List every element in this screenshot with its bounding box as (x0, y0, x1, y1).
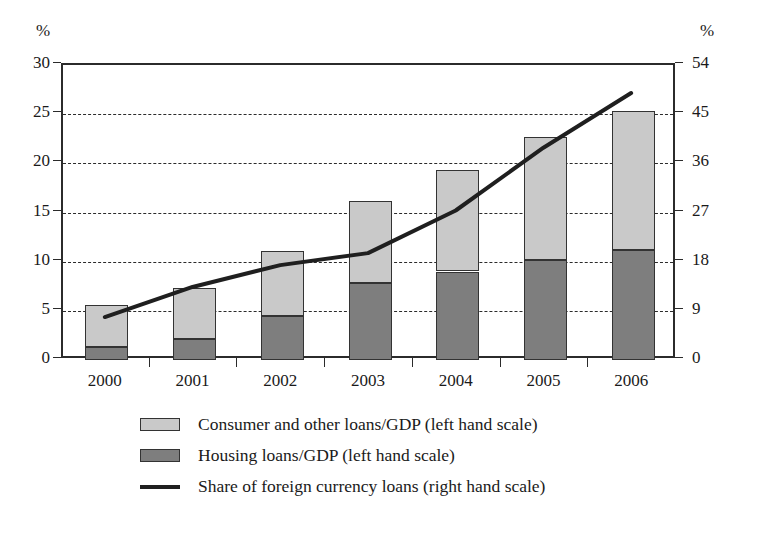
right-axis-tick-label: 36 (692, 152, 709, 169)
legend-label-housing-loans: Housing loans/GDP (left hand scale) (198, 446, 455, 465)
x-axis-category-label: 2001 (149, 372, 237, 389)
right-axis-tick (675, 308, 683, 309)
foreign-currency-loans-line-marker (140, 485, 180, 489)
left-axis-unit-label: % (36, 22, 50, 39)
legend-swatch-foreign-currency-loans (140, 485, 198, 489)
right-axis-unit-label: % (700, 22, 714, 39)
left-axis-tick (53, 62, 61, 63)
consumer-loans-color-box (140, 418, 180, 431)
housing-loans-color-box (140, 449, 180, 462)
right-axis-tick (675, 357, 683, 358)
left-axis-tick (53, 210, 61, 211)
x-axis-category-label: 2006 (587, 372, 675, 389)
left-axis-tick-label: 25 (33, 103, 50, 120)
x-axis-category-label: 2003 (324, 372, 412, 389)
left-axis-tick (53, 111, 61, 112)
left-axis-tick-label: 0 (42, 349, 51, 366)
left-axis-tick-label: 20 (33, 152, 50, 169)
x-axis-tick (324, 358, 325, 367)
right-axis-tick-label: 18 (692, 251, 709, 268)
bar-segment-consumer-loans (349, 201, 392, 284)
x-axis-tick (236, 358, 237, 367)
left-axis-tick-label: 10 (33, 251, 50, 268)
bar-segment-housing-loans (524, 260, 567, 360)
left-axis-tick (53, 259, 61, 260)
x-axis-tick (587, 358, 588, 367)
bar-segment-consumer-loans (261, 251, 304, 316)
x-axis-tick (412, 358, 413, 367)
gridline (63, 163, 673, 164)
right-axis-tick-label: 27 (692, 202, 709, 219)
legend-item-foreign-currency-loans: Share of foreign currency loans (right h… (140, 471, 660, 502)
left-axis-tick (53, 308, 61, 309)
bar-segment-housing-loans (85, 347, 128, 360)
legend-item-consumer-loans: Consumer and other loans/GDP (left hand … (140, 409, 660, 440)
bar-segment-consumer-loans (436, 170, 479, 271)
legend-label-consumer-loans: Consumer and other loans/GDP (left hand … (198, 415, 538, 434)
right-axis-tick (675, 62, 683, 63)
bar-segment-housing-loans (173, 339, 216, 360)
left-axis-tick-label: 5 (42, 300, 51, 317)
legend-swatch-consumer-loans (140, 418, 198, 431)
x-axis-tick (149, 358, 150, 367)
legend-label-foreign-currency-loans: Share of foreign currency loans (right h… (198, 477, 545, 496)
plot-area (61, 63, 675, 358)
legend-swatch-housing-loans (140, 449, 198, 462)
x-axis-tick (500, 358, 501, 367)
left-axis-tick-label: 15 (33, 202, 50, 219)
right-axis-tick-label: 9 (692, 300, 701, 317)
bar-segment-consumer-loans (612, 111, 655, 250)
x-axis-category-label: 2002 (236, 372, 324, 389)
left-axis-tick (53, 357, 61, 358)
right-axis-tick (675, 160, 683, 161)
chart-figure: % % 051015202530 091827364554 2000200120… (0, 0, 764, 534)
bar-segment-housing-loans (349, 283, 392, 360)
bar-segment-housing-loans (612, 250, 655, 360)
right-axis-tick (675, 259, 683, 260)
right-axis-tick-label: 54 (692, 54, 709, 71)
legend-item-housing-loans: Housing loans/GDP (left hand scale) (140, 440, 660, 471)
bar-segment-consumer-loans (173, 288, 216, 339)
gridline (63, 114, 673, 115)
right-axis-tick (675, 111, 683, 112)
chart-legend: Consumer and other loans/GDP (left hand … (140, 409, 660, 502)
right-axis-tick-label: 0 (692, 349, 701, 366)
x-axis-category-label: 2005 (500, 372, 588, 389)
left-axis-tick-label: 30 (33, 54, 50, 71)
bar-segment-housing-loans (261, 316, 304, 360)
right-axis-tick-label: 45 (692, 103, 709, 120)
left-axis-tick (53, 160, 61, 161)
bar-segment-housing-loans (436, 272, 479, 361)
bar-segment-consumer-loans (85, 305, 128, 347)
x-axis-category-label: 2004 (412, 372, 500, 389)
x-axis-category-label: 2000 (61, 372, 149, 389)
right-axis-tick (675, 210, 683, 211)
bar-segment-consumer-loans (524, 137, 567, 260)
